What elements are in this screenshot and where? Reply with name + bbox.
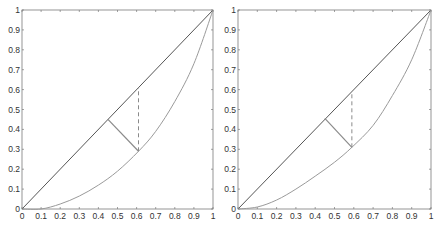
x-tick-label: 0.8 [386,211,398,221]
x-tick-label: 0.5 [112,211,124,221]
x-tick-label: 0.5 [329,211,341,221]
y-tick-label: 0 [231,204,236,214]
y-tick-label: 1 [231,5,236,15]
y-tick-label: 0.5 [8,105,20,115]
y-tick-label: 0.3 [8,144,20,154]
y-tick-label: 0.7 [8,65,20,75]
perpendicular-line [325,118,352,147]
y-tick-label: 0.6 [224,85,236,95]
diagonal-line [238,10,431,209]
y-tick-label: 0.2 [224,164,236,174]
x-tick-label: 1 [211,211,216,221]
x-tick-label: 0.2 [271,211,283,221]
y-tick-label: 0.7 [224,65,236,75]
x-tick-label: 0.9 [406,211,418,221]
perpendicular-line [108,119,139,151]
y-tick-label: 1 [15,5,20,15]
x-tick-label: 1 [429,211,434,221]
y-tick-label: 0.1 [224,184,236,194]
x-tick-label: 0 [20,211,25,221]
y-tick-label: 0.2 [8,164,20,174]
x-tick-label: 0.3 [290,211,302,221]
x-tick-label: 0.7 [367,211,379,221]
x-tick-label: 0.9 [188,211,200,221]
x-tick-label: 0.1 [251,211,263,221]
x-tick-label: 0.8 [169,211,181,221]
y-tick-label: 0.8 [8,45,20,55]
chart-canvas: 00.10.20.30.40.50.60.70.80.9100.10.20.30… [0,0,440,227]
y-tick-label: 0.9 [8,25,20,35]
chart-panel-1: 00.10.20.30.40.50.60.70.80.9100.10.20.30… [8,5,215,221]
y-tick-label: 0.5 [224,105,236,115]
y-tick-label: 0.8 [224,45,236,55]
x-tick-label: 0.2 [54,211,66,221]
diagonal-line [22,10,213,209]
y-tick-label: 0 [15,204,20,214]
x-tick-label: 0.6 [131,211,143,221]
x-tick-label: 0.1 [35,211,47,221]
x-tick-label: 0 [236,211,241,221]
y-tick-label: 0.6 [8,85,20,95]
x-tick-label: 0.4 [309,211,321,221]
y-tick-label: 0.3 [224,144,236,154]
x-tick-label: 0.6 [348,211,360,221]
x-tick-label: 0.4 [92,211,104,221]
y-tick-label: 0.1 [8,184,20,194]
y-tick-label: 0.9 [224,25,236,35]
chart-panel-2: 00.10.20.30.40.50.60.70.80.9100.10.20.30… [224,5,433,221]
y-tick-label: 0.4 [8,124,20,134]
y-tick-label: 0.4 [224,124,236,134]
x-tick-label: 0.3 [73,211,85,221]
x-tick-label: 0.7 [150,211,162,221]
